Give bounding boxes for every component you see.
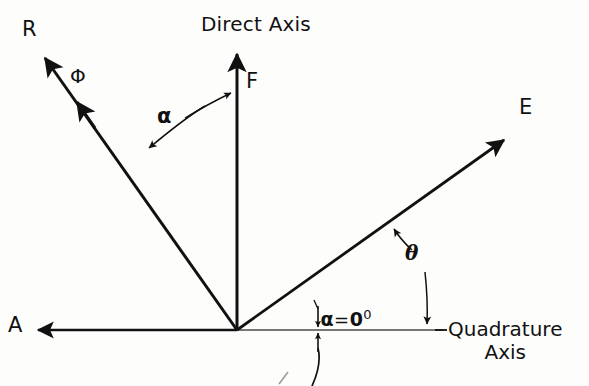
angle-label-alpha: α — [157, 105, 171, 127]
vector-r-mid-arrowhead — [77, 102, 95, 128]
angle-alpha-arc-2 — [185, 93, 231, 118]
angle-label-theta: θ — [405, 243, 418, 264]
alpha-zero-symbol: α — [320, 308, 334, 330]
angle-alpha-zero-leader — [312, 348, 319, 386]
angle-label-alpha-zero: α=00 — [292, 288, 372, 350]
vector-label-r: R — [22, 18, 37, 40]
quadrature-axis-label-line1: Quadrature — [448, 317, 562, 341]
alpha-zero-equals: = — [334, 309, 350, 330]
alpha-zero-value: 0 — [350, 308, 364, 330]
diagram-canvas: Direct Axis R Φ F E A α θ α=00 Quadratur… — [0, 0, 589, 386]
vector-label-a: A — [8, 314, 22, 336]
vector-label-f: F — [246, 70, 258, 92]
quadrature-axis-label: Quadrature Axis — [448, 318, 562, 364]
vector-label-e: E — [519, 96, 532, 118]
angle-theta-arc-2 — [425, 272, 427, 324]
quadrature-axis-label-line2: Axis — [448, 341, 562, 364]
vector-label-phi: Φ — [70, 66, 86, 87]
direct-axis-label: Direct Axis — [201, 14, 311, 35]
alpha-zero-degree: 0 — [363, 307, 372, 322]
vector-r-line — [45, 58, 237, 330]
caption-clipped-strokes — [279, 372, 288, 384]
